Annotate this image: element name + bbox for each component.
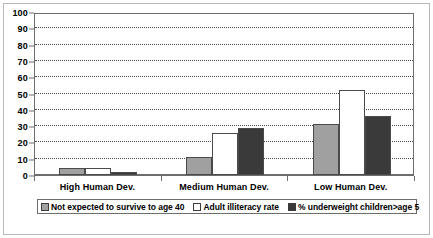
y-tick-label: 30	[18, 122, 28, 132]
bars-layer	[35, 14, 413, 175]
y-tick-label: 50	[18, 90, 28, 100]
y-tick-label: 70	[18, 57, 28, 67]
legend-swatch-icon	[41, 203, 49, 211]
y-tick-label: 20	[18, 138, 28, 148]
x-axis-label: Medium Human Dev.	[179, 182, 269, 192]
bar-group	[162, 14, 289, 175]
legend-label: Adult illiteracy rate	[203, 202, 278, 212]
x-tick-mark	[34, 176, 35, 181]
legend-swatch-icon	[288, 203, 296, 211]
bar	[365, 116, 391, 175]
bar-group	[288, 14, 415, 175]
chart-legend: Not expected to survive to age 40Adult i…	[37, 199, 417, 214]
bar	[339, 90, 365, 175]
legend-label: % underweight children>age 5	[298, 202, 419, 212]
legend-entry: Adult illiteracy rate	[193, 202, 278, 212]
bar	[238, 128, 264, 175]
x-tick-mark	[161, 176, 162, 181]
bar	[212, 133, 238, 175]
y-tick-label: 60	[18, 73, 28, 83]
bar	[186, 157, 212, 175]
legend-entry: Not expected to survive to age 40	[41, 202, 184, 212]
bar	[313, 124, 339, 175]
x-tick-mark	[287, 176, 288, 181]
legend-label: Not expected to survive to age 40	[51, 202, 184, 212]
bar-group	[35, 14, 162, 175]
x-axis-label: Low Human Dev.	[314, 182, 387, 192]
x-tick-mark	[414, 176, 415, 181]
y-axis: 0102030405060708090100	[0, 13, 34, 176]
y-tick-label: 0	[23, 171, 28, 181]
y-tick-label: 10	[18, 155, 28, 165]
bar	[85, 168, 111, 175]
x-axis-label: High Human Dev.	[60, 182, 135, 192]
y-tick-label: 80	[18, 41, 28, 51]
bar	[59, 168, 85, 175]
plot-area	[34, 13, 414, 176]
y-tick-label: 90	[18, 24, 28, 34]
legend-swatch-icon	[193, 203, 201, 211]
legend-entry: % underweight children>age 5	[288, 202, 419, 212]
y-tick-label: 40	[18, 106, 28, 116]
chart-figure: 0102030405060708090100 High Human Dev.Me…	[0, 0, 433, 238]
bar	[111, 172, 137, 175]
x-axis: High Human Dev.Medium Human Dev.Low Huma…	[34, 176, 414, 196]
y-tick-label: 100	[12, 8, 28, 18]
